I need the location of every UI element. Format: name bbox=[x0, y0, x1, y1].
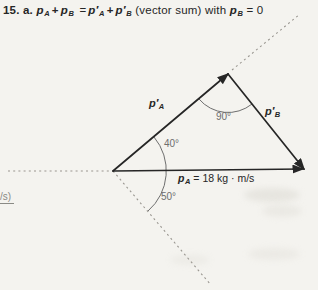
vector-pA-prime bbox=[113, 74, 228, 171]
cut-off-margin-text: /s) bbox=[0, 191, 14, 204]
vector-diagram bbox=[0, 0, 318, 290]
label-pB-prime: p′B bbox=[265, 105, 280, 119]
label-angle-90: 90° bbox=[216, 111, 231, 122]
label-angle-40: 40° bbox=[164, 138, 179, 149]
vector-pA bbox=[113, 169, 303, 171]
textbook-figure-page: 15. a. pA+pB =p′A+p′B (vector sum) with … bbox=[0, 0, 318, 290]
vector-pB-prime bbox=[228, 74, 304, 169]
dashed-50deg-reference-line bbox=[113, 171, 211, 285]
label-angle-50: 50° bbox=[161, 191, 176, 202]
label-pA-prime: p′A bbox=[149, 97, 164, 111]
dashed-pA-prime-extension-line bbox=[232, 14, 300, 70]
label-pA-magnitude: pA= 18 kg · m/s bbox=[178, 172, 254, 186]
